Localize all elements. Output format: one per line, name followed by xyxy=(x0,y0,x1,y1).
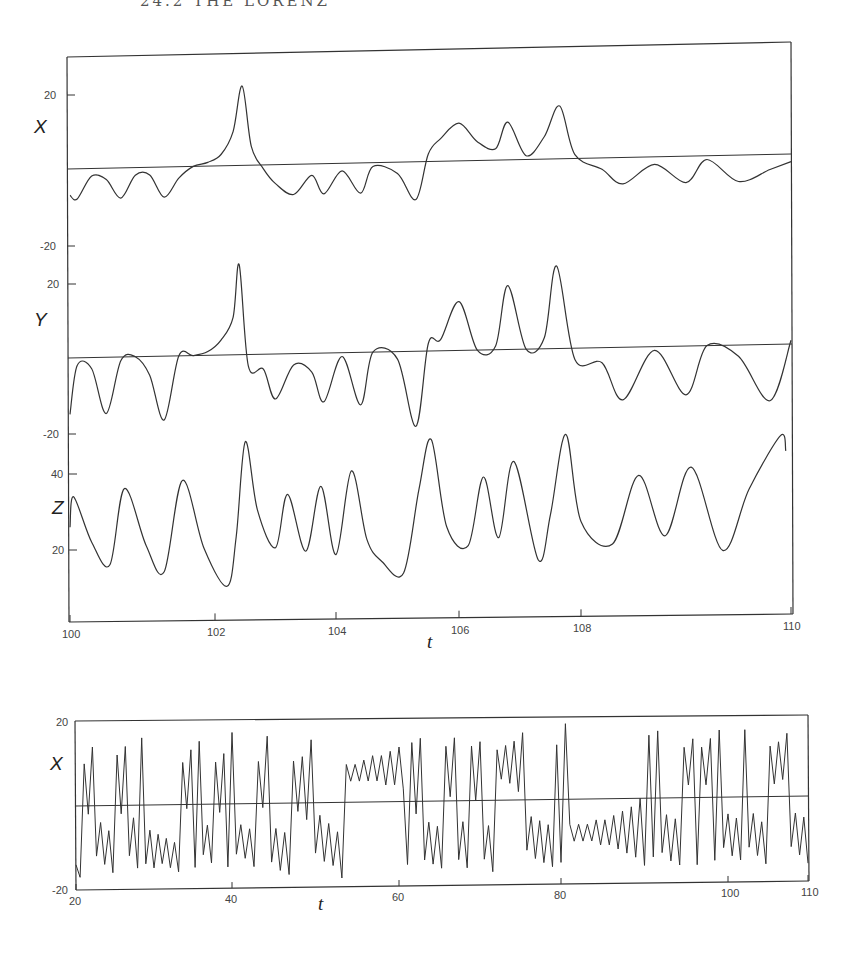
y-series-line xyxy=(70,264,791,427)
z-panel-label: Z xyxy=(51,497,65,518)
y-panel-zero-line xyxy=(68,344,792,358)
y-panel-tick-label-neg: -20 xyxy=(43,428,59,440)
svg-text:102: 102 xyxy=(207,626,225,638)
svg-text:100: 100 xyxy=(721,887,739,899)
x-panel-tick-label-pos: 20 xyxy=(44,89,56,101)
svg-text:100: 100 xyxy=(62,628,80,640)
y-panel-label: Y xyxy=(34,309,48,330)
x-panel: X 20 -20 xyxy=(33,86,791,252)
bottom-x-axis-ticks: 20406080100110 xyxy=(69,875,819,907)
x-panel-tick-label-neg: -20 xyxy=(40,240,56,252)
svg-text:106: 106 xyxy=(451,624,469,636)
z-panel-tick-label-40: 40 xyxy=(51,468,63,480)
svg-text:110: 110 xyxy=(783,620,801,632)
bottom-y-tick-label-neg: -20 xyxy=(52,884,68,896)
z-panel-tick-label-20: 20 xyxy=(52,544,64,556)
x-panel-zero-line xyxy=(67,154,791,169)
svg-text:40: 40 xyxy=(225,893,237,905)
top-chart-frame xyxy=(67,42,793,622)
svg-text:80: 80 xyxy=(554,889,566,901)
top-x-axis-title: t xyxy=(427,631,433,652)
bottom-chart-y-label: X xyxy=(49,753,64,774)
y-panel: Y 20 -20 xyxy=(34,264,792,440)
bottom-y-tick-label-pos: 20 xyxy=(56,716,68,728)
lorenz-time-series-chart: 100102104106108110 X 20 -20 Y 20 -20 Z 4… xyxy=(0,0,847,959)
x-series-line xyxy=(70,86,791,200)
bottom-zero-line xyxy=(75,796,808,806)
svg-text:110: 110 xyxy=(801,886,819,898)
svg-text:20: 20 xyxy=(69,895,81,907)
bottom-x-axis-title: t xyxy=(318,893,324,914)
z-series-line xyxy=(70,434,786,586)
svg-text:60: 60 xyxy=(392,891,404,903)
svg-text:104: 104 xyxy=(328,625,346,637)
y-panel-tick-label-pos: 20 xyxy=(47,278,59,290)
svg-text:108: 108 xyxy=(573,622,591,634)
z-panel: Z 40 20 xyxy=(51,434,786,586)
x-panel-label: X xyxy=(33,116,48,137)
